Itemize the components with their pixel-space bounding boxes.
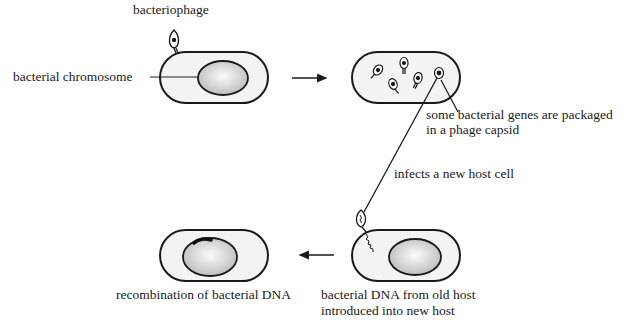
transducing-phage-icon <box>357 210 367 232</box>
label-packaged-line2: in a phage capsid <box>426 122 519 138</box>
bacteriophage-icon <box>170 30 179 53</box>
transduction-diagram <box>0 0 632 326</box>
label-infects: infects a new host cell <box>394 166 514 182</box>
label-introduced-line1: bacterial DNA from old host <box>321 287 475 303</box>
label-packaged-line1: some bacterial genes are packaged <box>426 107 613 123</box>
bacterial-chromosome-nucleoid <box>198 61 248 95</box>
label-bacterial-chromosome: bacterial chromosome <box>13 69 133 85</box>
label-introduced-line2: introduced into new host <box>321 303 455 319</box>
cell-recombinant <box>160 230 268 281</box>
label-recombination: recombination of bacterial DNA <box>116 287 291 303</box>
cell-new-host <box>352 230 460 281</box>
label-bacteriophage: bacteriophage <box>133 2 209 18</box>
